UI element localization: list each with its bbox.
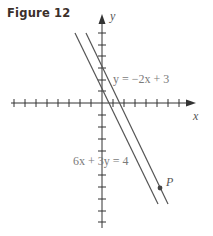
y-axis-label: y bbox=[109, 9, 116, 23]
y-axis-arrow-icon bbox=[99, 14, 106, 24]
x-axis-label: x bbox=[192, 109, 199, 123]
point-p-marker bbox=[158, 186, 163, 191]
coordinate-plane: y x y = −2x + 3 6x + 3y = 4 P bbox=[0, 0, 213, 236]
x-axis bbox=[11, 99, 196, 107]
equation-label-line2: 6x + 3y = 4 bbox=[73, 154, 129, 168]
point-p-label: P bbox=[165, 175, 174, 189]
x-axis-arrow-icon bbox=[186, 100, 196, 107]
line-6x-plus-3y-equals-4 bbox=[75, 33, 158, 204]
y-axis bbox=[98, 14, 106, 228]
line-y-equals-neg2x-plus-3 bbox=[86, 33, 168, 204]
equation-label-line1: y = −2x + 3 bbox=[113, 72, 169, 86]
